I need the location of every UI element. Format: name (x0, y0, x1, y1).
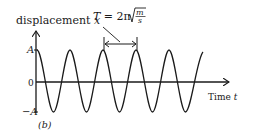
period-formula: T = 2π (93, 10, 131, 23)
x-axis-label: Time t (208, 92, 238, 102)
cosine-waveform (37, 50, 203, 112)
y-tick-label-minus-A: −A (22, 106, 38, 117)
y-axis-label: displacement x (16, 14, 101, 27)
y-tick-label-zero: 0 (28, 78, 34, 88)
y-tick-label-A: A (26, 44, 34, 55)
leader-line (103, 27, 120, 42)
formula-denominator: s (138, 16, 142, 25)
shm-diagram: displacement x A 0 −A Time t T = 2π m s … (0, 0, 254, 136)
panel-label: (b) (38, 119, 52, 130)
